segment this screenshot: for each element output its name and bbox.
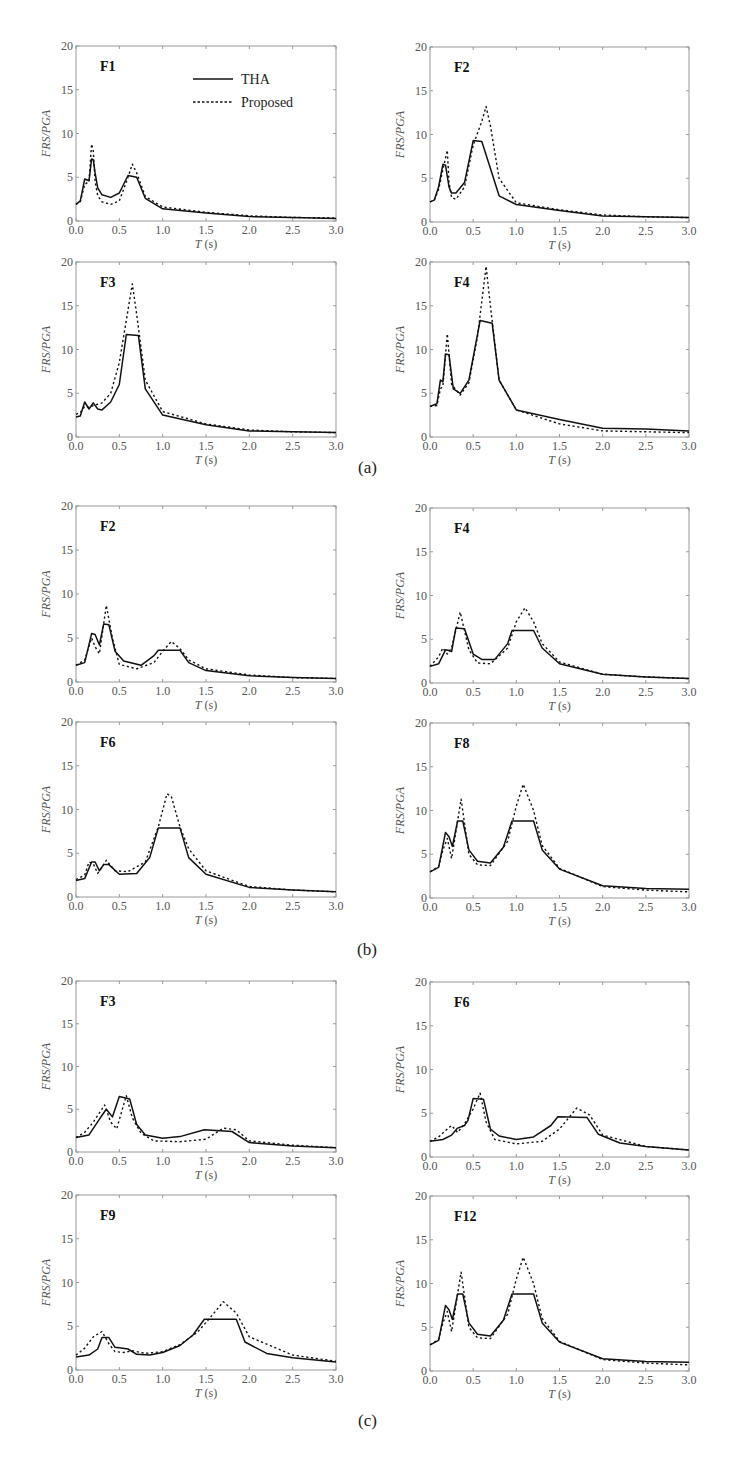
x-axis-label: T (s) [195,1168,217,1182]
series-tha-line [430,1098,689,1150]
x-tick-label: 1.5 [199,223,214,237]
x-tick-label: 1.5 [552,685,567,699]
panel-title: F6 [454,995,470,1010]
x-tick-label: 0.5 [112,684,127,698]
y-axis-label: FRS/PGA [393,325,407,374]
chart-panel-a-f4: 0.00.51.01.52.02.53.005101520T (s)FRS/PG… [393,255,697,467]
y-tick-label: 20 [61,499,73,513]
y-tick-label: 0 [421,215,427,229]
x-tick-label: 0.5 [112,1372,127,1386]
x-tick-label: 1.0 [155,439,170,453]
panel-title: F4 [454,521,470,536]
y-tick-label: 5 [67,170,73,184]
y-tick-label: 5 [67,1319,73,1333]
x-tick-label: 1.5 [199,899,214,913]
x-tick-label: 1.0 [509,439,524,453]
chart-panel-b-f8: 0.00.51.01.52.02.53.005101520T (s)FRS/PG… [393,716,697,928]
x-tick-label: 2.5 [285,1372,300,1386]
x-tick-label: 3.0 [682,439,697,453]
x-tick-label: 1.5 [199,439,214,453]
y-tick-label: 10 [415,1063,427,1077]
y-tick-label: 20 [415,1189,427,1203]
x-tick-label: 1.0 [509,900,524,914]
panel-title: F4 [454,275,470,290]
y-axis-label: FRS/PGA [393,1045,407,1094]
y-tick-label: 20 [61,255,73,269]
y-tick-label: 5 [67,1102,73,1116]
panel-title: F2 [100,519,116,534]
y-tick-label: 5 [421,632,427,646]
y-tick-label: 20 [415,716,427,730]
y-tick-label: 10 [61,587,73,601]
chart-panel-a-f3: 0.00.51.01.52.02.53.005101520T (s)FRS/PG… [39,255,344,467]
y-tick-label: 5 [421,847,427,861]
series-tha-line [76,159,336,219]
y-tick-label: 15 [415,1019,427,1033]
x-tick-label: 2.0 [242,223,257,237]
y-tick-label: 15 [415,545,427,559]
y-tick-label: 10 [61,343,73,357]
x-tick-label: 1.0 [509,1159,524,1173]
series-proposed-line [76,144,336,218]
series-tha-line [76,335,336,433]
series-proposed-line [76,284,336,433]
y-tick-label: 15 [415,84,427,98]
x-tick-label: 3.0 [329,223,344,237]
x-tick-label: 0.5 [112,439,127,453]
x-tick-label: 3.0 [329,1372,344,1386]
series-tha-line [430,628,689,679]
x-tick-label: 3.0 [329,439,344,453]
x-tick-label: 2.0 [595,439,610,453]
series-tha-line [76,624,336,679]
x-tick-label: 2.5 [638,1373,653,1387]
x-tick-label: 3.0 [682,1159,697,1173]
x-tick-label: 3.0 [682,685,697,699]
legend: THAProposed [193,72,293,110]
y-tick-label: 10 [61,803,73,817]
x-tick-label: 2.5 [285,684,300,698]
y-tick-label: 5 [421,1106,427,1120]
y-tick-label: 20 [61,974,73,988]
x-tick-label: 1.5 [552,900,567,914]
x-tick-label: 0.5 [466,439,481,453]
y-tick-label: 0 [67,890,73,904]
y-tick-label: 10 [415,804,427,818]
x-tick-label: 1.5 [552,439,567,453]
chart-panel-b-f2: 0.00.51.01.52.02.53.005101520T (s)FRS/PG… [39,499,344,712]
x-tick-label: 1.0 [509,224,524,238]
y-axis-label: FRS/PGA [39,1042,53,1091]
x-tick-label: 2.5 [638,685,653,699]
y-tick-label: 20 [61,1188,73,1202]
y-tick-label: 15 [415,760,427,774]
group-label-c: (c) [358,1411,377,1431]
panel-title: F9 [100,1208,116,1223]
x-tick-label: 2.5 [285,1154,300,1168]
chart-panel-b-f4: 0.00.51.01.52.02.53.005101520T (s)FRS/PG… [393,501,697,713]
group-label-b: (b) [357,940,377,960]
x-tick-label: 2.5 [638,900,653,914]
y-tick-label: 0 [67,1363,73,1377]
x-tick-label: 1.0 [155,684,170,698]
panel-title: F6 [100,735,116,750]
y-tick-label: 15 [61,299,73,313]
x-tick-label: 2.0 [595,685,610,699]
y-tick-label: 0 [421,1364,427,1378]
x-tick-label: 1.5 [552,1159,567,1173]
x-tick-label: 2.0 [242,1154,257,1168]
y-axis-label: FRS/PGA [39,1258,53,1307]
y-tick-label: 15 [61,1232,73,1246]
y-tick-label: 15 [61,759,73,773]
y-axis-label: FRS/PGA [393,1259,407,1308]
x-tick-label: 0.5 [466,224,481,238]
x-tick-label: 3.0 [682,224,697,238]
y-tick-label: 20 [61,39,73,53]
chart-panel-a-f1: 0.00.51.01.52.02.53.005101520T (s)FRS/PG… [39,39,344,251]
chart-panel-c-f12: 0.00.51.01.52.02.53.005101520T (s)FRS/PG… [393,1189,697,1401]
x-tick-label: 1.0 [155,1372,170,1386]
x-tick-label: 1.5 [199,1372,214,1386]
y-tick-label: 20 [61,715,73,729]
x-tick-label: 2.5 [285,899,300,913]
x-tick-label: 0.5 [112,899,127,913]
y-tick-label: 10 [415,343,427,357]
panel-title: F12 [454,1209,477,1224]
